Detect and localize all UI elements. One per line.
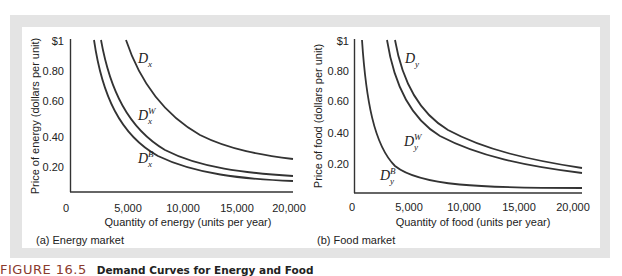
label-dy-w: D W y <box>403 132 423 152</box>
label-dy-b: D B y <box>379 166 396 186</box>
energy-y-tick: 0.80 <box>43 65 64 77</box>
energy-x-tick: 15,000 <box>220 202 254 214</box>
food-panel-caption: (b) Food market <box>317 234 395 246</box>
label-dx-b: D B x <box>137 149 154 169</box>
food-x-tick: 5,000 <box>395 201 423 213</box>
food-y-axis-label: Price of food (dollars per unit) <box>312 44 324 188</box>
svg-text:W: W <box>414 132 423 142</box>
energy-x-tick: 5,000 <box>114 202 142 214</box>
energy-chart: $1 0.80 0.60 0.40 0.20 0 5,000 10,000 15… <box>29 35 306 228</box>
svg-text:D: D <box>137 108 148 123</box>
figure-number: FIGURE 16.5 <box>0 262 87 276</box>
svg-text:B: B <box>148 149 154 159</box>
figure-title: Demand Curves for Energy and Food <box>97 264 314 276</box>
svg-text:y: y <box>389 176 394 186</box>
energy-panel-caption: (a) Energy market <box>36 234 124 246</box>
svg-text:x: x <box>147 59 152 69</box>
energy-x-tick: 10,000 <box>166 202 200 214</box>
label-dx-w: D W x <box>137 106 157 126</box>
food-x-tick: 10,000 <box>447 201 481 213</box>
svg-text:W: W <box>148 106 157 116</box>
svg-text:D: D <box>137 51 148 66</box>
energy-y-tick: 0.40 <box>43 131 64 143</box>
food-y-tick: 0.60 <box>328 95 349 107</box>
energy-y-tick: $1 <box>52 35 64 47</box>
energy-x-tick: 20,000 <box>272 202 306 214</box>
food-y-tick: $1 <box>337 35 349 47</box>
svg-text:y: y <box>414 59 419 69</box>
svg-text:D: D <box>379 168 390 183</box>
food-x-tick: 15,000 <box>502 201 536 213</box>
svg-text:B: B <box>390 166 396 176</box>
svg-text:D: D <box>403 134 414 149</box>
energy-y-tick: 0.60 <box>43 95 64 107</box>
food-x-tick: 0 <box>349 201 355 213</box>
svg-text:y: y <box>413 142 418 152</box>
food-chart: $1 0.80 0.60 0.40 0.20 0 5,000 10,000 15… <box>312 35 590 228</box>
energy-y-tick: 0.20 <box>43 161 64 173</box>
curve-dy <box>395 40 582 168</box>
svg-text:x: x <box>147 116 152 126</box>
food-x-tick: 20,000 <box>556 201 590 213</box>
energy-y-axis-label: Price of energy (dollars per unit) <box>29 38 41 195</box>
svg-text:D: D <box>404 51 415 66</box>
svg-text:x: x <box>147 159 152 169</box>
svg-text:D: D <box>137 151 148 166</box>
curve-dx-b <box>94 40 293 181</box>
energy-x-axis-label: Quantity of energy (units per year) <box>105 216 272 228</box>
label-dy: D y <box>404 51 419 69</box>
food-x-axis-label: Quantity of food (units per year) <box>396 216 551 228</box>
food-y-tick: 0.20 <box>328 158 349 170</box>
figure-caption: FIGURE 16.5Demand Curves for Energy and … <box>0 260 313 276</box>
energy-x-tick: 0 <box>63 202 69 214</box>
label-dx: D x <box>137 51 152 69</box>
food-y-tick: 0.40 <box>328 127 349 139</box>
food-y-tick: 0.80 <box>328 65 349 77</box>
